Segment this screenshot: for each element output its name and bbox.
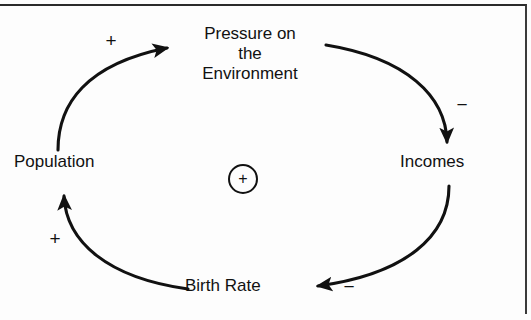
node-label-incomes: Incomes [400,152,510,172]
causal-loop-diagram: Pressure on the Environment Incomes Birt… [0,0,531,320]
polarity-sign-population-to-pressure: + [102,31,120,50]
node-label-pressure-on-the-environment: Pressure on the Environment [175,24,325,84]
polarity-sign-birth-rate-to-population: + [46,229,64,248]
loop-marker-sign: + [228,164,258,194]
node-label-birth-rate: Birth Rate [185,276,305,296]
polarity-sign-pressure-to-incomes: − [453,95,471,114]
node-label-population: Population [14,152,144,172]
polarity-sign-incomes-to-birth-rate: − [340,277,358,296]
arrow-population-to-pressure [58,48,167,150]
arrow-incomes-to-birth-rate [318,186,449,286]
arrow-pressure-to-incomes [326,45,447,142]
arrow-birth-rate-to-population [64,196,188,289]
reinforcing-loop-marker: + [228,164,258,194]
